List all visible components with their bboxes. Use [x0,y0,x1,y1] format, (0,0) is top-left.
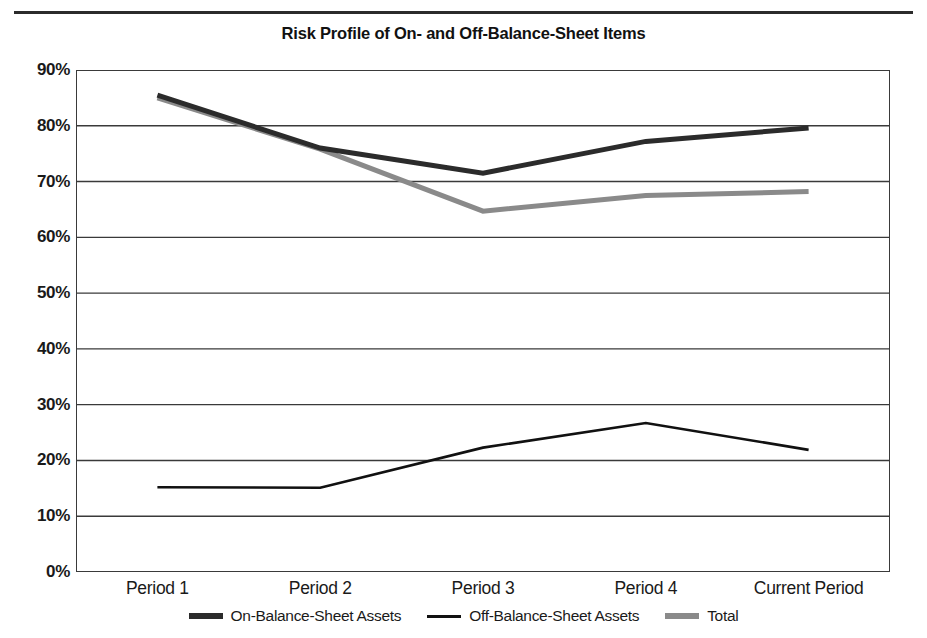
chart-figure: Risk Profile of On- and Off-Balance-Shee… [0,0,927,638]
top-divider-rule [14,11,913,14]
plot-svg [76,70,890,572]
series-line [157,423,808,488]
x-tick-label: Current Period [754,578,864,599]
y-tick-label: 30% [8,395,70,415]
legend-item[interactable]: Off-Balance-Sheet Assets [427,607,639,625]
y-tick-label: 40% [8,339,70,359]
y-tick-label: 90% [8,60,70,80]
chart-title: Risk Profile of On- and Off-Balance-Shee… [0,24,927,43]
legend-swatch-icon [427,615,461,618]
y-tick-label: 20% [8,450,70,470]
y-axis-tick-labels: 0%10%20%30%40%50%60%70%80%90% [0,0,70,638]
legend-label: On-Balance-Sheet Assets [231,607,402,625]
x-tick-label: Period 4 [614,578,677,599]
legend-item[interactable]: On-Balance-Sheet Assets [189,607,402,625]
y-tick-label: 0% [8,562,70,582]
x-axis-tick-labels: Period 1Period 2Period 3Period 4Current … [76,578,890,606]
legend-label: Total [707,607,738,625]
y-tick-label: 10% [8,506,70,526]
chart-legend: On-Balance-Sheet AssetsOff-Balance-Sheet… [0,603,927,629]
legend-swatch-icon [189,613,223,619]
y-tick-label: 50% [8,283,70,303]
y-tick-label: 70% [8,172,70,192]
x-tick-label: Period 1 [126,578,189,599]
legend-label: Off-Balance-Sheet Assets [469,607,639,625]
y-tick-label: 80% [8,116,70,136]
legend-item[interactable]: Total [665,607,738,625]
plot-area [76,70,890,572]
legend-swatch-icon [665,613,699,619]
y-tick-label: 60% [8,227,70,247]
series-line [157,95,808,173]
series-line [157,98,808,211]
x-tick-label: Period 3 [452,578,515,599]
x-tick-label: Period 2 [289,578,352,599]
